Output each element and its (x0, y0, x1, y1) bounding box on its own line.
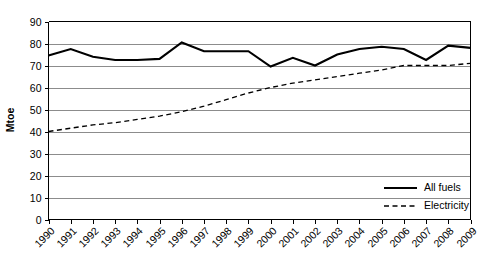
y-tick-label: 40 (30, 126, 42, 138)
y-tick-label: 50 (30, 104, 42, 116)
line-chart: 0102030405060708090 Mtoe 199019911992199… (0, 0, 482, 261)
y-tick-label: 10 (30, 192, 42, 204)
y-tick-label: 20 (30, 170, 42, 182)
y-tick-label: 30 (30, 148, 42, 160)
y-tick-label: 80 (30, 38, 42, 50)
legend-label-electricity: Electricity (424, 199, 470, 211)
y-tick-label: 90 (30, 16, 42, 28)
y-tick-label: 70 (30, 60, 42, 72)
chart-background (0, 0, 482, 261)
chart-container: 0102030405060708090 Mtoe 199019911992199… (0, 0, 482, 261)
y-tick-label: 60 (30, 82, 42, 94)
y-tick-label: 0 (36, 214, 42, 226)
y-axis-title: Mtoe (4, 108, 16, 133)
legend-label-all-fuels: All fuels (424, 181, 461, 193)
